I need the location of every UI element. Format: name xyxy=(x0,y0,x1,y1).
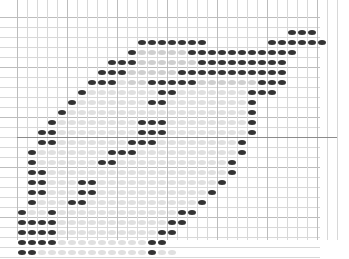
data-point-marker xyxy=(128,210,136,215)
grid-line-horizontal xyxy=(0,157,320,158)
data-point-marker xyxy=(48,220,56,225)
data-point-marker xyxy=(58,250,66,255)
data-point-marker xyxy=(178,90,186,95)
grid-line-horizontal xyxy=(0,257,320,258)
data-point-marker xyxy=(208,80,216,85)
data-point-marker xyxy=(128,70,136,75)
data-point-marker xyxy=(208,70,216,75)
data-point-marker xyxy=(168,170,176,175)
data-point-marker xyxy=(58,240,66,245)
data-point-marker xyxy=(148,60,156,65)
data-point-marker xyxy=(148,200,156,205)
data-point-marker xyxy=(228,100,236,105)
data-point-marker xyxy=(198,160,206,165)
data-point-marker xyxy=(98,170,106,175)
data-point-marker xyxy=(58,140,66,145)
data-point-marker xyxy=(128,80,136,85)
grid-line-horizontal xyxy=(0,87,320,88)
grid-line-horizontal xyxy=(0,97,320,98)
data-point-marker xyxy=(148,150,156,155)
data-point-marker xyxy=(168,130,176,135)
data-point-marker xyxy=(58,220,66,225)
data-point-marker xyxy=(98,80,106,85)
data-point-marker xyxy=(158,90,166,95)
data-point-marker xyxy=(248,100,256,105)
data-point-marker xyxy=(78,170,86,175)
data-point-marker xyxy=(78,180,86,185)
data-point-marker xyxy=(218,100,226,105)
data-point-marker xyxy=(108,200,116,205)
data-point-marker xyxy=(138,50,146,55)
data-point-marker xyxy=(158,150,166,155)
data-point-marker xyxy=(168,180,176,185)
data-point-marker xyxy=(298,40,306,45)
data-point-marker xyxy=(148,170,156,175)
data-point-marker xyxy=(28,230,36,235)
data-point-marker xyxy=(128,110,136,115)
grid-line-horizontal xyxy=(0,197,320,198)
data-point-marker xyxy=(158,160,166,165)
data-point-marker xyxy=(108,190,116,195)
data-point-marker xyxy=(118,100,126,105)
data-point-marker xyxy=(148,130,156,135)
data-point-marker xyxy=(208,100,216,105)
data-point-marker xyxy=(198,150,206,155)
data-point-marker xyxy=(158,250,166,255)
data-point-marker xyxy=(158,60,166,65)
data-point-marker xyxy=(128,200,136,205)
data-point-marker xyxy=(108,140,116,145)
data-point-marker xyxy=(138,80,146,85)
grid-line-horizontal xyxy=(0,217,320,218)
data-point-marker xyxy=(78,200,86,205)
data-point-marker xyxy=(218,120,226,125)
data-point-marker xyxy=(158,200,166,205)
data-point-marker xyxy=(128,120,136,125)
data-point-marker xyxy=(268,80,276,85)
data-point-marker xyxy=(218,70,226,75)
data-point-marker xyxy=(148,160,156,165)
data-point-marker xyxy=(78,110,86,115)
data-point-marker xyxy=(208,120,216,125)
data-point-marker xyxy=(128,240,136,245)
data-point-marker xyxy=(128,60,136,65)
data-point-marker xyxy=(18,240,26,245)
data-point-marker xyxy=(268,70,276,75)
data-point-marker xyxy=(308,40,316,45)
data-point-marker xyxy=(68,220,76,225)
data-point-marker xyxy=(138,200,146,205)
data-point-marker xyxy=(218,130,226,135)
data-point-marker xyxy=(148,240,156,245)
data-point-marker xyxy=(188,100,196,105)
grid-line-vertical xyxy=(17,0,18,240)
data-point-marker xyxy=(158,240,166,245)
data-point-marker xyxy=(168,40,176,45)
data-point-marker xyxy=(138,100,146,105)
data-point-marker xyxy=(138,120,146,125)
data-point-marker xyxy=(178,150,186,155)
data-point-marker xyxy=(118,200,126,205)
data-point-marker xyxy=(128,180,136,185)
data-point-marker xyxy=(98,220,106,225)
data-point-marker xyxy=(198,60,206,65)
data-point-marker xyxy=(58,120,66,125)
data-point-marker xyxy=(188,140,196,145)
data-point-marker xyxy=(68,120,76,125)
data-point-marker xyxy=(238,50,246,55)
data-point-marker xyxy=(198,100,206,105)
data-point-marker xyxy=(168,250,176,255)
data-point-marker xyxy=(38,190,46,195)
grid-line-horizontal xyxy=(0,17,320,18)
data-point-marker xyxy=(108,130,116,135)
data-point-marker xyxy=(38,220,46,225)
data-point-marker xyxy=(148,220,156,225)
data-point-marker xyxy=(128,160,136,165)
data-point-marker xyxy=(158,130,166,135)
data-point-marker xyxy=(138,250,146,255)
grid-line-horizontal xyxy=(0,177,320,178)
data-point-marker xyxy=(168,220,176,225)
data-point-marker xyxy=(108,120,116,125)
data-point-marker xyxy=(278,40,286,45)
data-point-marker xyxy=(78,150,86,155)
data-point-marker xyxy=(118,60,126,65)
data-point-marker xyxy=(188,160,196,165)
